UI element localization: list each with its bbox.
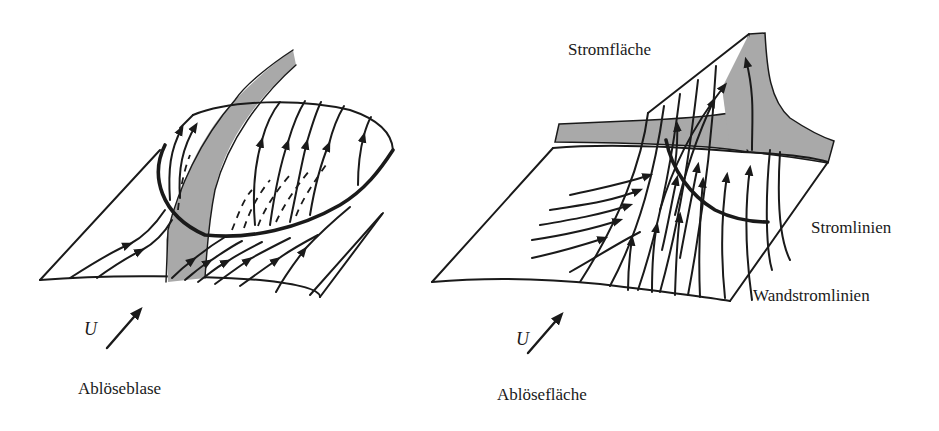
flow-velocity-label-right: U: [516, 330, 529, 348]
label-wall-streamlines: Wandstromlinien: [753, 287, 870, 304]
flow-direction-arrow-left: [107, 310, 140, 348]
reverse-flow-line: [232, 190, 252, 230]
figure: U Ablöseblase Stromfläche Stromlinien Wa…: [0, 0, 939, 431]
flow-velocity-label-left: U: [84, 320, 97, 338]
label-stream-surface: Stromfläche: [568, 41, 651, 58]
caption-left: Ablöseblase: [78, 380, 161, 397]
diagram-canvas: [0, 0, 939, 431]
flow-direction-arrow-right: [528, 315, 561, 353]
wall-edge-line: [310, 214, 382, 295]
caption-right: Ablösefläche: [497, 386, 587, 403]
label-streamlines: Stromlinien: [811, 219, 891, 236]
left-panel-separation-bubble: [40, 50, 393, 297]
right-panel-separation-surface: [432, 33, 834, 301]
